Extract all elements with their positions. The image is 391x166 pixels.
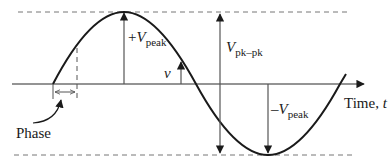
peak-subscript: peak [146, 36, 167, 48]
peak-subscript: peak [288, 108, 309, 120]
vpkpk-label: Vpk–pk [226, 40, 263, 55]
v-symbol: V [279, 101, 288, 117]
minus-sign: – [271, 101, 279, 117]
v-symbol: V [226, 39, 235, 55]
time-axis-label: Time, t [344, 96, 387, 111]
instantaneous-v-label: v [164, 66, 171, 81]
phase-pointer-arrow [33, 100, 61, 123]
plus-vpeak-label: +Vpeak [128, 30, 166, 45]
v-symbol: V [136, 29, 145, 45]
sine-wave-diagram [0, 0, 391, 166]
phase-label: Phase [16, 126, 51, 141]
pkpk-subscript: pk–pk [235, 46, 263, 58]
t-symbol: t [383, 95, 387, 111]
minus-vpeak-label: –Vpeak [271, 102, 308, 117]
time-text: Time, [344, 95, 383, 111]
